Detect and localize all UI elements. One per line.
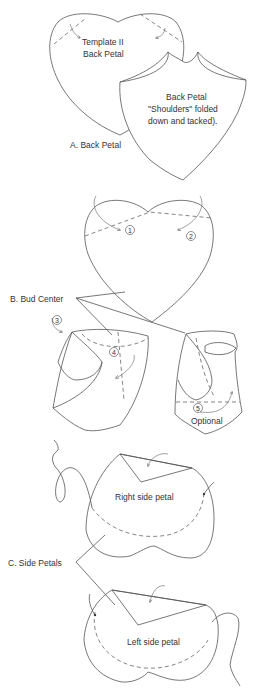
bud-center-heart (85, 196, 214, 322)
folded-label-1: Back Petal (166, 92, 207, 102)
caption-c-leaders (76, 535, 115, 605)
svg-text:1: 1 (128, 227, 132, 234)
step-1-marker: 1 (126, 226, 135, 235)
bud-center-fold-left (52, 318, 148, 431)
template-label-1: Template II (82, 37, 124, 47)
caption-b: B. Bud Center (10, 294, 64, 304)
step-5-marker: 5 (194, 404, 203, 413)
svg-text:4: 4 (112, 349, 116, 356)
optional-label: Optional (191, 416, 223, 426)
diagram-canvas: Template II Back Petal Back Petal "Shoul… (0, 0, 253, 693)
svg-text:3: 3 (55, 317, 59, 324)
step-4-marker: 4 (110, 348, 119, 357)
left-side-petal (84, 586, 240, 686)
left-petal-label: Left side petal (127, 637, 180, 647)
caption-a: A. Back Petal (70, 140, 121, 150)
right-petal-label: Right side petal (115, 492, 174, 502)
svg-text:5: 5 (196, 405, 200, 412)
folded-label-3: down and tacked). (148, 116, 217, 126)
step-3-marker: 3 (53, 316, 62, 325)
caption-c: C. Side Petals (8, 558, 62, 568)
svg-text:2: 2 (189, 233, 193, 240)
step-2-marker: 2 (187, 232, 196, 241)
folded-label-2: "Shoulders" folded (148, 104, 218, 114)
template-label-2: Back Petal (83, 49, 124, 59)
caption-b-leaders (76, 292, 185, 335)
